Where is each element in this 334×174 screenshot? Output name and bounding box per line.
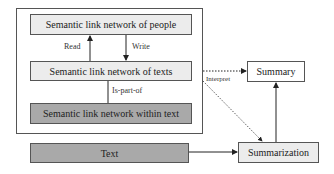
interpret-diagonal-arrow: [203, 81, 262, 141]
diagram-edges: [0, 0, 334, 174]
